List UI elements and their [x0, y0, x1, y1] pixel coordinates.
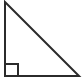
right-triangle-figure	[0, 0, 82, 84]
figure-background	[0, 0, 82, 84]
figure-canvas	[0, 0, 82, 84]
